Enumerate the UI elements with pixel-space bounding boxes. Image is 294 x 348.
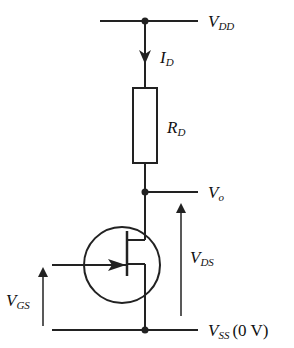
jfet-circuit-diagram: VDD ID RD Vo VDS VGS VSS(0 V) [0,0,294,348]
vdd-label: VDD [208,12,234,32]
vo-node [142,189,149,196]
vo-label: Vo [208,183,224,203]
resistor-rd [133,88,157,163]
vss-label: VSS(0 V) [208,321,268,341]
vss-node [142,327,149,334]
rd-label: RD [166,118,185,138]
id-label: ID [159,48,174,68]
vgs-label: VGS [6,291,30,311]
vdd-node [142,18,149,25]
vds-label: VDS [190,248,214,268]
vds-arrowhead-icon [176,203,186,213]
vgs-arrowhead-icon [38,267,48,277]
